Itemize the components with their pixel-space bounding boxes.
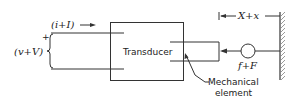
voltage-label: (v+V) xyxy=(14,46,43,57)
mech-element-pointer xyxy=(186,55,195,75)
mech-element-label-line2: element xyxy=(215,88,253,98)
wall-hatching xyxy=(281,12,285,80)
current-arrowhead xyxy=(90,23,96,27)
displacement-label: X+x xyxy=(237,10,259,21)
transducer-label: Transducer xyxy=(122,47,173,57)
plus-sign: + xyxy=(42,32,50,42)
current-label: (i+I) xyxy=(51,19,74,30)
force-arrowhead xyxy=(220,49,227,54)
force-source-circle xyxy=(241,44,255,58)
mech-element-leader xyxy=(195,75,209,82)
dimension-arrowhead xyxy=(220,14,226,18)
mech-element-label-line1: Mechanical xyxy=(208,77,259,87)
transducer-diagram: (i+I) + (v+V) Transducer X+x f+F Mechani… xyxy=(0,0,299,106)
force-label: f+F xyxy=(237,60,258,71)
